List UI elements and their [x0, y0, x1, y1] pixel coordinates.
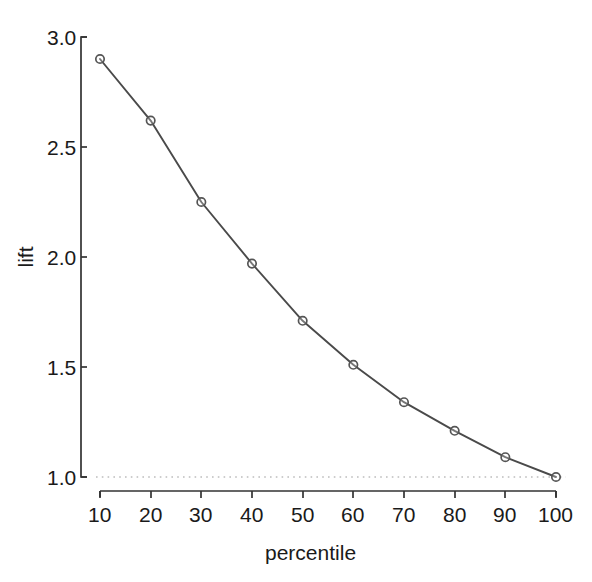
data-point-10: [96, 55, 104, 63]
data-point-60: [349, 361, 357, 369]
data-point-50: [298, 317, 306, 325]
y-tick-label-2.0: 2.0: [47, 246, 76, 270]
x-tick-label-70: 70: [392, 503, 415, 527]
x-tick-label-20: 20: [139, 503, 162, 527]
x-tick-label-40: 40: [240, 503, 263, 527]
lift-series-line: [100, 59, 556, 477]
y-tick-label-1.0: 1.0: [47, 466, 76, 490]
data-point-90: [501, 453, 509, 461]
x-tick-label-60: 60: [341, 503, 364, 527]
lift-series-markers: [96, 55, 560, 481]
x-tick-label-50: 50: [291, 503, 314, 527]
data-point-100: [552, 473, 560, 481]
x-axis-label: percentile: [265, 541, 356, 565]
x-tick-label-90: 90: [493, 503, 516, 527]
data-point-70: [400, 398, 408, 406]
y-tick-label-1.5: 1.5: [47, 356, 76, 380]
x-tick-label-80: 80: [443, 503, 466, 527]
x-tick-label-10: 10: [88, 503, 111, 527]
data-point-30: [197, 198, 205, 206]
lift-chart: 1.0 1.5 2.0 2.5 3.0 10 20 30 40 50 60 70…: [0, 0, 592, 582]
y-tick-label-3.0: 3.0: [47, 26, 76, 50]
data-point-40: [248, 259, 256, 267]
y-axis-label: lift: [14, 234, 38, 280]
x-axis-line: [100, 491, 556, 497]
data-point-20: [146, 116, 154, 124]
y-tick-label-2.5: 2.5: [47, 136, 76, 160]
data-point-80: [450, 427, 458, 435]
plot-area: [0, 0, 592, 582]
x-tick-label-30: 30: [189, 503, 212, 527]
x-tick-label-100: 100: [538, 503, 573, 527]
